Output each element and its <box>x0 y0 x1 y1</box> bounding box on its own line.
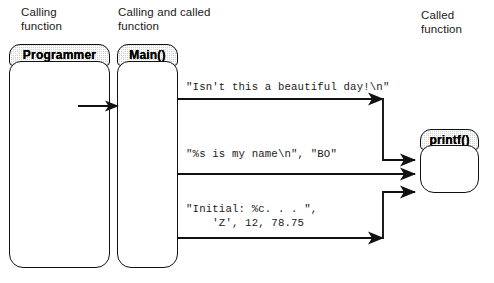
function-box-main: Main() <box>117 44 178 268</box>
diagram-canvas: Calling function Calling and called func… <box>0 0 494 283</box>
function-box-printf-body <box>420 145 479 193</box>
caption-calling-and-called-function: Calling and called function <box>118 6 211 33</box>
caption-calling-function: Calling function <box>21 6 62 33</box>
caption-called-function: Called function <box>421 9 462 36</box>
function-box-programmer-label: Programmer <box>23 48 96 62</box>
arrow-call-2 <box>178 168 416 181</box>
function-box-main-body <box>117 61 178 268</box>
function-box-programmer: Programmer <box>9 44 110 268</box>
call-arguments-3: "Initial: %c. . . ", 'Z', 12, 78.75 <box>186 202 317 230</box>
function-box-programmer-body <box>9 61 110 268</box>
function-box-main-label: Main() <box>129 48 166 62</box>
call-arguments-2: "%s is my name\n", "BO" <box>186 147 337 161</box>
call-arguments-1: "Isn't this a beautiful day!\n" <box>186 80 389 94</box>
function-box-printf: printf() <box>420 129 479 193</box>
